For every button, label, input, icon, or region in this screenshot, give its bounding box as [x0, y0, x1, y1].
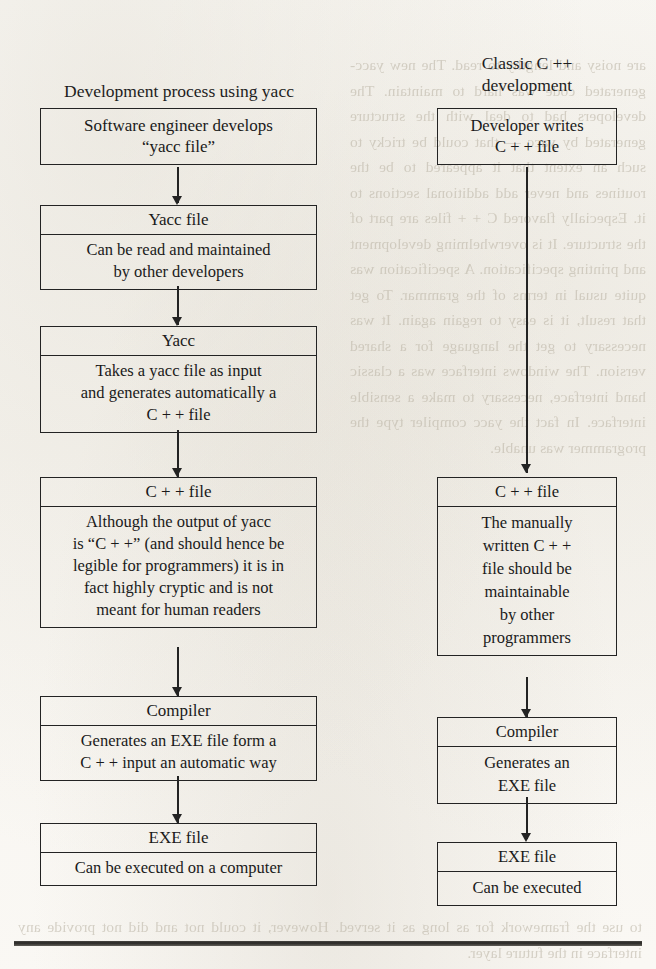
node-compiler-left: Compiler Generates an EXE file form a C … — [40, 696, 317, 781]
node-head: C + + file — [41, 478, 316, 507]
scanned-book-page: are noisy and lengthy to read. The new y… — [0, 0, 656, 969]
node-head: Developer writes C + + file — [438, 109, 616, 164]
node-software-engineer-develops: Software engineer develops “yacc file” — [40, 108, 317, 165]
node-compiler-right: Compiler Generates an EXE file — [437, 717, 617, 804]
node-body: Takes a yacc file as input and generates… — [41, 356, 316, 432]
node-head: Yacc file — [41, 206, 316, 235]
arrowhead-left-1 — [172, 196, 182, 205]
node-yacc-file: Yacc file Can be read and maintained by … — [40, 205, 317, 290]
node-body: Can be executed — [438, 872, 616, 905]
arrowhead-left-3 — [172, 468, 182, 477]
node-body: Can be read and maintained by other deve… — [41, 235, 316, 289]
node-head: Yacc — [41, 327, 316, 356]
node-head: Software engineer develops “yacc file” — [41, 109, 316, 164]
arrowhead-left-2 — [172, 317, 182, 326]
node-head: EXE file — [41, 824, 316, 853]
arrowhead-left-4 — [172, 687, 182, 696]
node-head: Compiler — [41, 697, 316, 726]
node-exe-file-left: EXE file Can be executed on a computer — [40, 823, 317, 886]
arrowhead-left-5 — [172, 814, 182, 823]
node-body: Generates an EXE file form a C + + input… — [41, 726, 316, 780]
node-exe-file-right: EXE file Can be executed — [437, 842, 617, 906]
node-body: Can be executed on a computer — [41, 853, 316, 885]
left-column-title: Development process using yacc — [22, 80, 336, 102]
node-head: EXE file — [438, 843, 616, 872]
page-bottom-rule — [14, 941, 642, 946]
node-head: Compiler — [438, 718, 616, 747]
arrowhead-right-3 — [521, 833, 531, 842]
arrowhead-right-1 — [521, 464, 531, 473]
node-body: Although the output of yacc is “C + +” (… — [41, 507, 316, 627]
node-developer-writes-cpp: Developer writes C + + file — [437, 108, 617, 165]
right-column-title: Classic C ++ development — [420, 52, 634, 96]
node-body: The manually written C + + file should b… — [438, 507, 616, 655]
node-head: C + + file — [438, 478, 616, 507]
node-body: Generates an EXE file — [438, 747, 616, 803]
connector-right-1 — [526, 167, 528, 473]
bleed-through-text-bottom: to use the framework for as long as it s… — [18, 914, 642, 965]
node-yacc: Yacc Takes a yacc file as input and gene… — [40, 326, 317, 433]
node-cpp-file-right: C + + file The manually written C + + fi… — [437, 477, 617, 656]
node-cpp-file-left: C + + file Although the output of yacc i… — [40, 477, 317, 628]
